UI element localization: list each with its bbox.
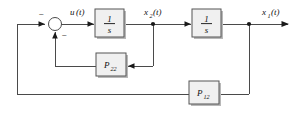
p12-label-subscript: 12 bbox=[204, 93, 210, 100]
summing-sign-bottom: − bbox=[61, 30, 66, 40]
arrow-into-integrator2 bbox=[185, 21, 192, 27]
signal-label-x1-base: x bbox=[261, 7, 266, 17]
block-gain-p22[interactable]: P 22 bbox=[96, 53, 128, 78]
integrator-1-denominator: s bbox=[108, 25, 112, 35]
integrator-2-numerator: 1 bbox=[204, 14, 209, 24]
arrow-into-sum-bottom bbox=[52, 32, 58, 39]
summing-junction-circle[interactable] bbox=[49, 18, 62, 31]
signal-label-x1-arg: (t) bbox=[271, 7, 280, 17]
block-diagram-svg: − − 1 s 1 s P 22 P bbox=[0, 0, 301, 115]
arrow-into-p22 bbox=[128, 63, 135, 69]
block-integrator-2[interactable]: 1 s bbox=[192, 9, 223, 39]
signal-label-x2-arg: (t) bbox=[153, 7, 162, 17]
block-gain-p12[interactable]: P 12 bbox=[189, 81, 221, 106]
arrowheads bbox=[39, 21, 290, 97]
signal-label-u-base: u bbox=[70, 7, 75, 17]
block-integrator-1[interactable]: 1 s bbox=[95, 9, 126, 39]
node-dot-x2 bbox=[151, 22, 155, 26]
integrator-2-denominator: s bbox=[205, 25, 209, 35]
signal-label-u-arg: (t) bbox=[76, 7, 85, 17]
node-dot-x1 bbox=[247, 22, 251, 26]
arrow-into-integrator1 bbox=[88, 21, 95, 27]
wire-network bbox=[17, 24, 288, 94]
block-diagram-canvas: − − 1 s 1 s P 22 P bbox=[0, 0, 301, 115]
summing-sign-left: − bbox=[38, 9, 43, 19]
integrator-1-numerator: 1 bbox=[107, 14, 112, 24]
p22-label-base: P bbox=[103, 60, 110, 70]
p12-label-base: P bbox=[196, 88, 203, 98]
signal-label-x2-base: x bbox=[143, 7, 148, 17]
arrow-output-x1 bbox=[282, 21, 290, 27]
p22-label-subscript: 22 bbox=[111, 65, 117, 72]
arrow-into-sum-left bbox=[39, 21, 46, 27]
